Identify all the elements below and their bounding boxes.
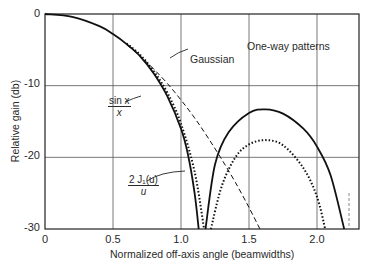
x-tick-0: 0 [30,233,60,245]
gaussian-annotation: Gaussian [190,53,234,65]
curve-dotted [127,43,205,229]
sinx-denominator: x [108,107,131,118]
x-tick-0-5: 0.5 [98,233,128,245]
curve-solid [45,14,199,229]
x-tick-2-0: 2.0 [302,233,332,245]
sinx-numerator: sin x [108,95,131,107]
y-tick-0: 0 [10,7,40,19]
x-tick-1-0: 1.0 [166,233,196,245]
y-axis-label: Relative gain (db) [9,66,21,176]
bessel-numerator: 2 J₁(u) [128,174,159,186]
curve-solid [206,109,345,229]
x-axis-label: Normalized off-axis angle (beamwidths) [110,248,294,260]
bessel-denominator: u [128,186,159,197]
sinx-annotation: sin x x [108,95,131,118]
curve-dotted [211,140,325,229]
y-tick-30: -30 [10,221,40,233]
curve-dashed [127,45,260,229]
x-tick-1-5: 1.5 [234,233,264,245]
gaussian-leader [170,49,188,58]
chart-title: One-way patterns [247,40,330,52]
bessel-annotation: 2 J₁(u) u [128,174,159,197]
